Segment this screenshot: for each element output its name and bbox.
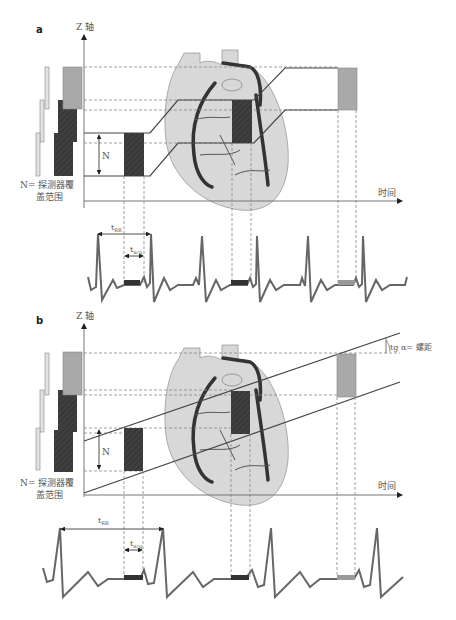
t-acq-label: tacq xyxy=(130,539,143,550)
detector-block-dark xyxy=(58,390,77,432)
panel-a-label: a xyxy=(36,24,43,35)
panel-b-label: b xyxy=(36,315,43,326)
t-rr-label: tRR xyxy=(111,223,122,233)
n-label: N xyxy=(102,447,110,457)
acq-window-2 xyxy=(231,280,248,285)
acq-window-1 xyxy=(124,280,140,285)
z-axis-label: Z 轴 xyxy=(76,310,94,321)
panel-b: b Z 轴 tg α= 螺距 N N= 探测器覆 盖范围 xyxy=(20,310,432,597)
pitch-label: tg α= 螺距 xyxy=(390,342,432,352)
detector-block-light xyxy=(63,352,82,395)
z-axis-label: Z 轴 xyxy=(76,21,94,32)
acquired-slab-3 xyxy=(337,354,356,397)
time-axis-label: 时间 xyxy=(378,187,396,198)
time-axis-label: 时间 xyxy=(378,480,396,491)
heart-illustration xyxy=(165,50,288,210)
n-caption-line2: 盖范围 xyxy=(36,191,63,202)
ecg-trace xyxy=(43,528,403,597)
heart-illustration xyxy=(165,345,288,505)
acquired-slab-3 xyxy=(338,68,357,110)
detector-block-dark xyxy=(54,430,73,472)
detector-block-light xyxy=(63,67,82,109)
acq-window-3 xyxy=(337,575,355,580)
n-caption-line2: 盖范围 xyxy=(36,489,63,500)
acq-window-3 xyxy=(338,280,355,285)
n-caption-line1: N= 探测器覆 xyxy=(20,477,74,488)
acquired-slab-2 xyxy=(231,391,250,434)
detector-strip xyxy=(36,133,40,176)
panel-a: a Z 轴 N N= 探测器覆 盖范围 xyxy=(20,21,407,302)
detector-strip xyxy=(45,353,49,395)
acquired-slab-1 xyxy=(124,428,143,471)
detector-strip xyxy=(45,67,49,109)
detector-strip xyxy=(36,428,40,470)
ecg-trace xyxy=(88,234,407,302)
acquired-slab-2 xyxy=(232,100,252,143)
t-rr-label: tRR xyxy=(98,516,109,526)
detector-strip xyxy=(40,390,44,432)
acq-window-2 xyxy=(231,575,249,580)
acquired-slab-1 xyxy=(124,133,144,176)
detector-strip xyxy=(40,100,44,142)
t-acq-label: tacq xyxy=(130,245,143,256)
acq-window-1 xyxy=(124,575,143,580)
n-label: N xyxy=(102,151,110,161)
n-caption-line1: N= 探测器覆 xyxy=(20,179,74,190)
cardiac-ct-acquisition-diagram: a Z 轴 N N= 探测器覆 盖范围 xyxy=(0,0,456,620)
